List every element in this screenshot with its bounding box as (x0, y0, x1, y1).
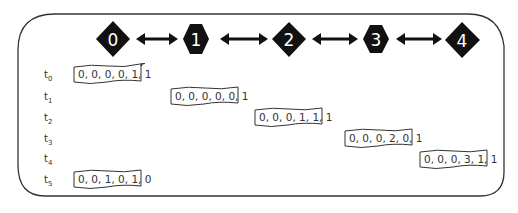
svg-text:1: 1 (191, 30, 202, 50)
diagram-canvas: 0 1 2 3 4 t0 t1 (0, 0, 518, 213)
edge-3-4-arrow-icon (396, 33, 442, 45)
vector-box-t4: 0, 0, 0, 3, 1, 1 (420, 150, 497, 169)
svg-text:t2: t2 (44, 112, 52, 126)
edge-0-1-arrow-icon (136, 33, 178, 45)
svg-text:3: 3 (371, 30, 382, 50)
node-1: 1 (183, 24, 209, 54)
svg-text:t1: t1 (44, 91, 52, 105)
svg-text:0, 0, 0, 0, 1, 1: 0, 0, 0, 0, 1, 1 (78, 68, 151, 80)
node-2: 2 (272, 22, 306, 57)
svg-text:0, 0, 0, 2, 0, 1: 0, 0, 0, 2, 0, 1 (349, 132, 422, 144)
time-label-t1: t1 (44, 91, 52, 105)
svg-text:t3: t3 (44, 133, 52, 147)
node-4: 4 (445, 22, 480, 58)
vector-box-t2: 0, 0, 0, 1, 1, 1 (255, 108, 332, 127)
node-0: 0 (96, 21, 130, 57)
time-label-t2: t2 (44, 112, 52, 126)
edge-1-2-arrow-icon (220, 33, 268, 45)
svg-text:2: 2 (284, 30, 295, 50)
edge-2-3-arrow-icon (312, 33, 358, 45)
svg-text:0, 0, 0, 0, 0, 1: 0, 0, 0, 0, 0, 1 (175, 90, 248, 102)
svg-text:0: 0 (108, 30, 119, 50)
time-label-t5: t5 (44, 174, 52, 188)
svg-text:t5: t5 (44, 174, 52, 188)
svg-text:t4: t4 (44, 153, 53, 167)
vector-box-t0: 0, 0, 0, 0, 1, 1 (74, 64, 151, 84)
time-label-t4: t4 (44, 153, 53, 167)
time-label-t3: t3 (44, 133, 52, 147)
svg-text:t0: t0 (44, 69, 52, 83)
svg-text:0, 0, 1, 0, 1, 0: 0, 0, 1, 0, 1, 0 (78, 173, 151, 185)
svg-text:4: 4 (457, 31, 468, 51)
time-label-t0: t0 (44, 69, 52, 83)
node-3: 3 (363, 25, 389, 53)
vector-box-t5: 0, 0, 1, 0, 1, 0 (74, 170, 151, 189)
vector-box-t1: 0, 0, 0, 0, 0, 1 (171, 87, 248, 106)
svg-text:0, 0, 0, 1, 1, 1: 0, 0, 0, 1, 1, 1 (259, 111, 332, 123)
vector-box-t3: 0, 0, 0, 2, 0, 1 (345, 129, 422, 148)
svg-text:0, 0, 0, 3, 1, 1: 0, 0, 0, 3, 1, 1 (424, 153, 497, 165)
